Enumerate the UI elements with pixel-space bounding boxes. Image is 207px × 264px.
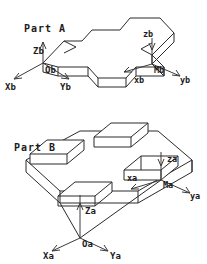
label-yb-base: Yb (60, 83, 71, 92)
label-mb-origin: Mb (154, 66, 164, 75)
part-a-axis-xb-arrow (14, 73, 22, 79)
part-a-axis-xb-line (14, 63, 43, 79)
part-b-construction-left (60, 203, 80, 238)
label-ma-origin: Ma (163, 181, 173, 190)
label-zb-mating: zb (143, 30, 153, 39)
label-yb-mating: yb (180, 76, 190, 85)
part-b-solid (26, 123, 192, 206)
part-a-title: Part A (24, 24, 66, 34)
label-xa-base: Xa (43, 252, 54, 261)
label-xa-mating: xa (127, 174, 137, 183)
diagram-canvas (0, 0, 207, 264)
isometric-parts-diagram: Part A Zb Ob Xb Yb zb Mb xb yb Part B Za… (0, 0, 207, 264)
label-za-mating: za (167, 155, 177, 164)
label-ob-origin: Ob (45, 66, 56, 75)
label-xb-mating: xb (134, 76, 144, 85)
label-xb-base: Xb (5, 83, 16, 92)
label-zb-base: Zb (33, 47, 44, 56)
label-ya-base: Ya (110, 252, 121, 261)
label-ya-mating: ya (190, 192, 200, 201)
label-oa-origin: Oa (82, 240, 93, 249)
part-b-title: Part B (14, 143, 56, 153)
part-b-axis-xa-line (52, 238, 80, 251)
label-za-base: Za (85, 207, 96, 216)
